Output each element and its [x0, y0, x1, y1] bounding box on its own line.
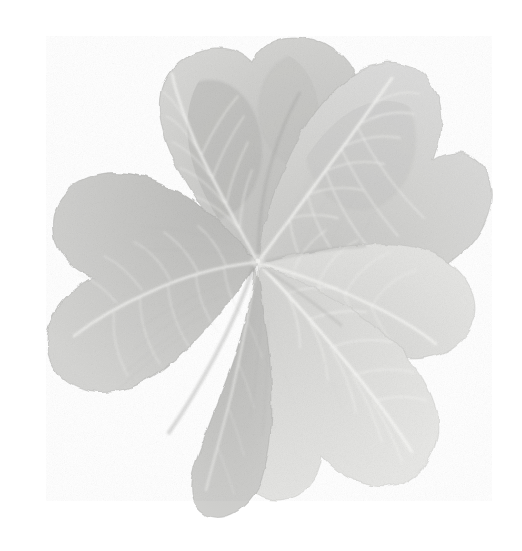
image-canvas: A five-leaflet clover leaf photographed …: [0, 0, 522, 551]
five-leaf-clover-image: [0, 0, 522, 551]
